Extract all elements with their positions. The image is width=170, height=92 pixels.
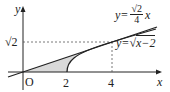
- sqrt-label-lhs: y=: [116, 36, 129, 50]
- x-axis-label: x: [157, 76, 162, 88]
- fraction-denominator: 4: [134, 15, 139, 25]
- sqrt-label-radicand: x−2: [136, 35, 155, 50]
- line-label-var: x: [145, 9, 150, 21]
- line-label: y= √2 4 x: [115, 4, 150, 25]
- sqrt-curve-label: y=√x−2: [116, 37, 155, 49]
- fraction: √2 4: [130, 4, 143, 25]
- origin-label: O: [25, 76, 34, 88]
- y-tick-sqrt2: √2: [5, 36, 18, 48]
- y-axis-label: y: [15, 3, 20, 15]
- x-tick-4: 4: [108, 77, 114, 89]
- y-axis-arrow-icon: [21, 6, 26, 12]
- x-tick-2: 2: [63, 77, 69, 89]
- line-label-lhs: y=: [115, 9, 128, 21]
- function-graph: y x O 2 4 √2 y= √2 4 x y=√x−2: [0, 0, 170, 92]
- x-axis-arrow-icon: [156, 70, 162, 75]
